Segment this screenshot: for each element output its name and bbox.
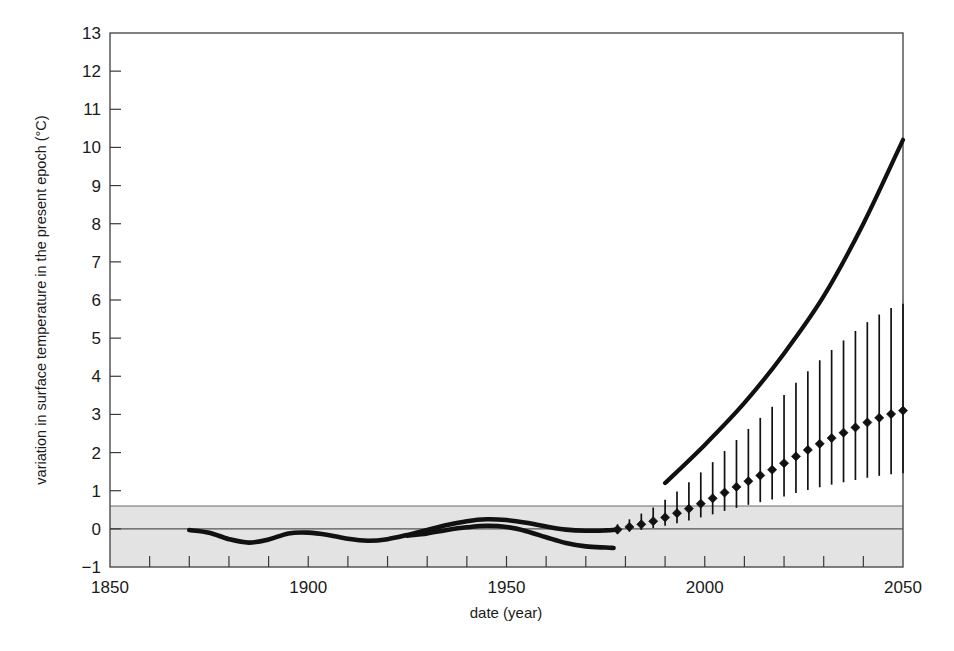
x-tick-label: 1850 xyxy=(91,578,129,597)
chart-figure: 131211109876543210−1 1850190019502000205… xyxy=(0,0,954,651)
y-tick-label: 6 xyxy=(92,291,101,310)
y-tick-label: 9 xyxy=(92,177,101,196)
y-tick-label: 8 xyxy=(92,215,101,234)
y-tick-label: 1 xyxy=(92,482,101,501)
y-tick-label: 10 xyxy=(82,138,101,157)
x-tick-label: 2050 xyxy=(884,578,922,597)
x-axis-title: date (year) xyxy=(470,604,543,621)
y-tick-label: 13 xyxy=(82,24,101,43)
x-tick-label: 1950 xyxy=(488,578,526,597)
y-tick-label: 3 xyxy=(92,405,101,424)
y-tick-label: 0 xyxy=(92,520,101,539)
y-axis-title: variation in surface temperature in the … xyxy=(33,115,49,484)
y-tick-label: 5 xyxy=(92,329,101,348)
x-tick-label: 2000 xyxy=(686,578,724,597)
y-tick-label: 12 xyxy=(82,62,101,81)
chart-canvas: 131211109876543210−1 1850190019502000205… xyxy=(0,0,954,651)
y-tick-label: −1 xyxy=(82,558,101,577)
y-tick-label: 11 xyxy=(83,100,101,119)
y-tick-label: 2 xyxy=(92,444,101,463)
x-tick-label: 1900 xyxy=(289,578,327,597)
y-tick-label: 4 xyxy=(92,367,101,386)
y-tick-label: 7 xyxy=(92,253,101,272)
